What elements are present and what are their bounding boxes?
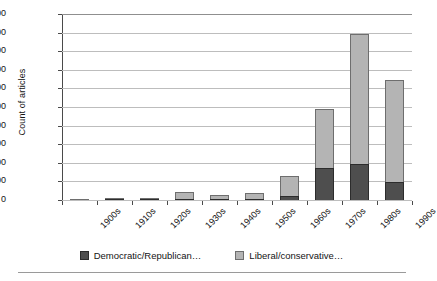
footer-divider: [18, 272, 406, 273]
bar-stack[interactable]: [245, 193, 264, 200]
legend-swatch-icon-liberal-conservative: [235, 251, 244, 260]
x-tick-mark: [412, 201, 413, 205]
bar-segment-democratic-republican[interactable]: [140, 199, 159, 200]
bar-stack[interactable]: [105, 198, 124, 200]
bar-stack[interactable]: [385, 80, 404, 200]
bar-segment-liberal-conservative[interactable]: [175, 192, 194, 199]
bar-segment-liberal-conservative[interactable]: [315, 109, 334, 167]
bar-stack[interactable]: [70, 199, 89, 200]
x-tick-label: 1920s: [168, 206, 192, 230]
bar-stack[interactable]: [140, 198, 159, 200]
x-tick-mark: [97, 201, 98, 205]
legend-label-liberal-conservative: Liberal/conservative…: [249, 250, 343, 261]
x-tick-mark: [272, 201, 273, 205]
bar-stack[interactable]: [210, 195, 229, 200]
y-tick-label: 1,400: [0, 64, 6, 74]
plot-area: [62, 14, 412, 201]
x-tick-mark: [202, 201, 203, 205]
y-tick-label: 600: [0, 138, 6, 148]
bar-group[interactable]: [377, 14, 412, 200]
y-tick-label: 200: [0, 175, 6, 185]
y-tick-label: 1,000: [0, 101, 6, 111]
x-tick-label: 1950s: [273, 206, 297, 230]
bar-group[interactable]: [97, 14, 132, 200]
bar-segment-democratic-republican[interactable]: [350, 164, 369, 200]
x-tick-label: 1910s: [133, 206, 157, 230]
x-tick-label: 1930s: [203, 206, 227, 230]
bar-segment-democratic-republican[interactable]: [385, 182, 404, 200]
y-tick-label: 1,800: [0, 27, 6, 37]
bar-segment-democratic-republican[interactable]: [245, 199, 264, 200]
x-tick-label: 1960s: [308, 206, 332, 230]
y-tick-label: 400: [0, 157, 6, 167]
x-tick-mark: [62, 201, 63, 205]
bar-segment-liberal-conservative[interactable]: [385, 80, 404, 182]
bar-segment-democratic-republican[interactable]: [105, 199, 124, 200]
y-tick-label: 1,200: [0, 82, 6, 92]
bar-segment-democratic-republican[interactable]: [175, 199, 194, 200]
bar-group[interactable]: [202, 14, 237, 200]
bar-group[interactable]: [62, 14, 97, 200]
bar-group[interactable]: [237, 14, 272, 200]
bar-stack[interactable]: [315, 109, 334, 200]
x-tick-mark: [132, 201, 133, 205]
legend-item-democratic-republican: Democratic/Republican…: [80, 250, 202, 261]
bar-segment-democratic-republican[interactable]: [210, 199, 229, 200]
legend-swatch-icon-democratic-republican: [80, 251, 89, 260]
y-axis-title: Count of articles: [17, 42, 27, 162]
x-tick-label: 1980s: [378, 206, 402, 230]
bar-stack[interactable]: [280, 176, 299, 200]
bar-segment-democratic-republican[interactable]: [280, 196, 299, 200]
x-tick-label: 1990s: [413, 206, 437, 230]
bar-group[interactable]: [342, 14, 377, 200]
bar-group[interactable]: [132, 14, 167, 200]
legend-label-democratic-republican: Democratic/Republican…: [94, 250, 202, 261]
x-tick-label: 1900s: [98, 206, 122, 230]
bar-segment-liberal-conservative[interactable]: [350, 34, 369, 165]
bar-group[interactable]: [307, 14, 342, 200]
x-tick-mark: [342, 201, 343, 205]
x-tick-mark: [237, 201, 238, 205]
chart-legend: Democratic/Republican… Liberal/conservat…: [0, 250, 423, 261]
y-tick-label: 0: [0, 194, 6, 204]
bar-group[interactable]: [167, 14, 202, 200]
bar-stack[interactable]: [175, 192, 194, 200]
y-tick-label: 800: [0, 120, 6, 130]
y-tick-label: 1,600: [0, 45, 6, 55]
x-tick-mark: [307, 201, 308, 205]
bar-segment-liberal-conservative[interactable]: [280, 176, 299, 196]
bar-segment-democratic-republican[interactable]: [315, 168, 334, 200]
bar-stack[interactable]: [350, 34, 369, 200]
x-tick-label: 1970s: [343, 206, 367, 230]
x-tick-mark: [377, 201, 378, 205]
bar-group[interactable]: [272, 14, 307, 200]
legend-item-liberal-conservative: Liberal/conservative…: [235, 250, 343, 261]
y-tick-label: 2,000: [0, 8, 6, 18]
bar-segment-liberal-conservative[interactable]: [70, 199, 89, 200]
x-tick-label: 1940s: [238, 206, 262, 230]
x-tick-mark: [167, 201, 168, 205]
